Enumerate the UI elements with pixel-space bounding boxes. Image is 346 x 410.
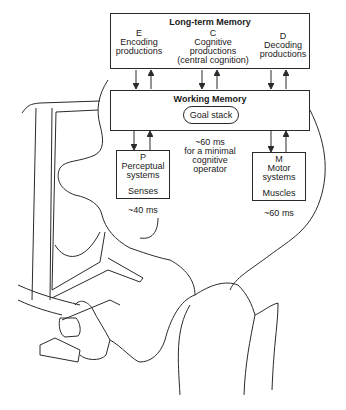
- perceptual-senses: Senses: [117, 186, 169, 196]
- perceptual-timing: ~40 ms: [116, 205, 170, 215]
- perceptual-line2: systems: [117, 170, 169, 180]
- motor-line2: systems: [253, 172, 305, 182]
- cognitive-timing-line4: operator: [170, 164, 250, 174]
- motor-muscles: Muscles: [253, 188, 305, 198]
- working-memory-title: Working Memory: [111, 94, 309, 104]
- motor-timing: ~60 ms: [252, 208, 306, 218]
- working-memory-box: Working Memory Goal stack: [110, 90, 310, 131]
- arrows: [0, 0, 346, 410]
- goal-stack: Goal stack: [183, 106, 239, 124]
- motor-systems-box: M Motor systems Muscles: [252, 152, 306, 201]
- perceptual-systems-box: P Perceptual systems Senses: [116, 150, 170, 199]
